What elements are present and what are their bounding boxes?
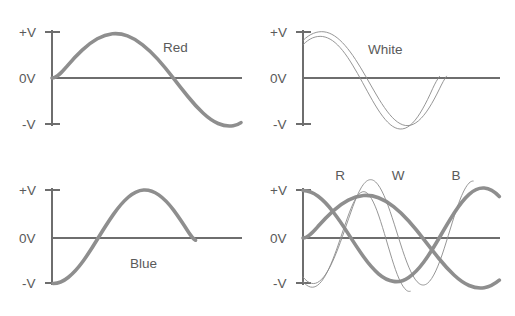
waveform-figure: +V 0V -V Red +V 0V -V White +V 0V -V Blu… — [0, 0, 515, 316]
panel-label-blue: Blue — [130, 256, 157, 271]
panel-blue: +V 0V -V Blue — [19, 183, 242, 291]
red-axis-label-plus-v: +V — [19, 25, 36, 40]
red-waveform — [52, 34, 241, 126]
panel-label-red: Red — [163, 40, 188, 55]
panel-white: +V 0V -V White — [270, 25, 500, 132]
composite-series-tag-w: W — [392, 168, 405, 183]
panel-composite: +V 0V -V R W B — [270, 168, 500, 291]
composite-waveform-r — [303, 195, 499, 288]
blue-axis-label-zero-v: 0V — [19, 231, 36, 246]
composite-series-tag-r: R — [335, 168, 345, 183]
white-axis-label-plus-v: +V — [270, 25, 287, 40]
blue-axis-label-plus-v: +V — [19, 183, 36, 198]
white-axis-label-minus-v: -V — [273, 117, 287, 132]
composite-axis-label-plus-v: +V — [270, 183, 287, 198]
composite-waveform-b — [303, 188, 499, 282]
red-axis-label-minus-v: -V — [22, 117, 36, 132]
panel-red: +V 0V -V Red — [19, 25, 242, 132]
composite-axis-label-zero-v: 0V — [270, 231, 287, 246]
red-axis-label-zero-v: 0V — [19, 71, 36, 86]
panel-label-white: White — [368, 42, 403, 57]
white-axis-label-zero-v: 0V — [270, 71, 287, 86]
composite-series-tag-b: B — [451, 168, 460, 183]
composite-axis-label-minus-v: -V — [273, 276, 287, 291]
blue-waveform — [53, 190, 196, 284]
blue-axis-label-minus-v: -V — [22, 276, 36, 291]
